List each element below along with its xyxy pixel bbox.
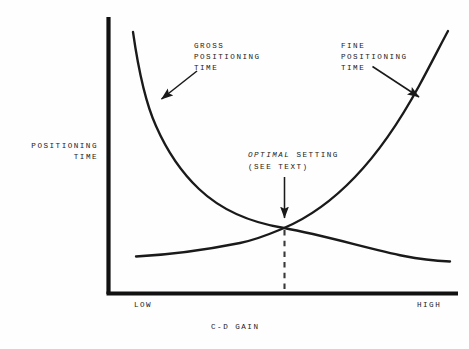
optimal-label-line2: (SEE TEXT) [248, 163, 309, 171]
x-tick-label-low: LOW [134, 300, 152, 311]
gross-label-line2: POSITIONING [194, 53, 261, 61]
gross-positioning-time-label: GROSSPOSITIONINGTIME [194, 41, 261, 75]
optimal-label-emphasis: OPTIMAL [248, 151, 290, 159]
gross-label-line1: GROSS [194, 42, 224, 50]
fine-positioning-time-label: FINEPOSITIONINGTIME [341, 41, 408, 75]
fine-label-line1: FINE [341, 42, 365, 50]
y-axis-label-line1: POSITIONING [31, 142, 98, 150]
chart-figure: GROSSPOSITIONINGTIME FINEPOSITIONINGTIME… [0, 0, 469, 349]
y-axis-label-line2: TIME [74, 153, 98, 161]
optimal-label-rest: SETTING [290, 151, 338, 159]
y-axis-label: POSITIONINGTIME [16, 141, 98, 163]
gross-annotation-arrow [162, 71, 198, 99]
fine-label-line2: POSITIONING [341, 53, 408, 61]
optimal-setting-label: OPTIMAL SETTING(SEE TEXT) [248, 149, 339, 173]
x-tick-label-high: HIGH [417, 300, 441, 311]
fine-label-line3: TIME [341, 64, 365, 72]
x-axis-label: C-D GAIN [0, 322, 469, 333]
gross-label-line3: TIME [194, 64, 218, 72]
